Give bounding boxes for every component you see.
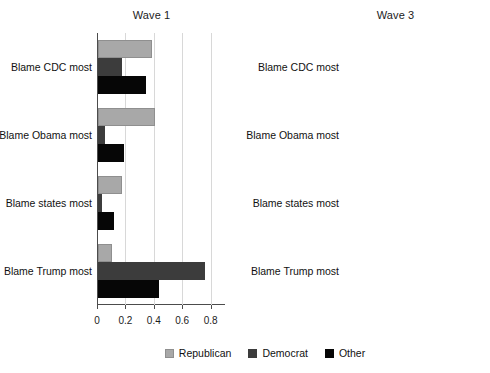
legend-item-republican: Republican <box>165 347 232 359</box>
category-label: Blame CDC most <box>11 61 92 73</box>
legend-label-republican: Republican <box>179 347 232 359</box>
x-axis-tick-mark <box>211 305 212 309</box>
bar-group <box>98 101 222 169</box>
x-axis-tick-mark <box>182 305 183 309</box>
bar-group <box>98 237 222 305</box>
bar-other <box>98 76 146 94</box>
category-label: Blame Obama most <box>0 129 92 141</box>
category-label: Blame Trump most <box>4 265 92 277</box>
bar-republican <box>98 176 122 194</box>
panel-wave-1: Wave 1 00.20.40.60.8 Blame CDC mostBlame… <box>0 0 245 340</box>
bar-democrat <box>98 126 105 144</box>
legend-label-other: Other <box>339 347 365 359</box>
category-label: Blame states most <box>253 197 339 209</box>
bar-democrat <box>98 262 205 280</box>
bar-group <box>98 33 222 101</box>
panel-title-wave-3: Wave 3 <box>245 9 490 21</box>
legend-swatch-republican-icon <box>165 349 174 358</box>
panel-wave-3: Wave 3 00.20.40.60.8 Blame CDC mostBlame… <box>245 0 490 340</box>
bar-other <box>98 144 124 162</box>
legend-label-democrat: Democrat <box>262 347 308 359</box>
bar-other <box>98 280 159 298</box>
x-axis-tick-label: 0 <box>94 315 100 326</box>
x-axis-tick-mark <box>125 305 126 309</box>
legend-swatch-democrat-icon <box>248 349 257 358</box>
x-axis-tick-label: 0.2 <box>118 315 132 326</box>
category-label: Blame states most <box>6 197 92 209</box>
x-axis-tick-mark <box>97 305 98 309</box>
bar-group <box>98 169 222 237</box>
bar-republican <box>98 244 112 262</box>
bar-democrat <box>98 58 122 76</box>
legend-swatch-other-icon <box>325 349 334 358</box>
plot-area-wave-1: 00.20.40.60.8 <box>97 33 222 305</box>
x-axis-tick-label: 0.6 <box>175 315 189 326</box>
chart-legend: Republican Democrat Other <box>0 347 490 359</box>
legend-item-democrat: Democrat <box>248 347 308 359</box>
bar-other <box>98 212 114 230</box>
bar-republican <box>98 108 155 126</box>
panel-title-wave-1: Wave 1 <box>0 9 245 21</box>
bar-republican <box>98 40 152 58</box>
bar-democrat <box>98 194 102 212</box>
category-label: Blame Obama most <box>246 129 339 141</box>
x-axis-tick-mark <box>154 305 155 309</box>
grouped-bar-chart-figure: Wave 1 00.20.40.60.8 Blame CDC mostBlame… <box>0 0 490 373</box>
category-label: Blame CDC most <box>258 61 339 73</box>
x-axis-tick-label: 0.8 <box>204 315 218 326</box>
legend-item-other: Other <box>325 347 365 359</box>
x-axis-tick-label: 0.4 <box>147 315 161 326</box>
category-label: Blame Trump most <box>251 265 339 277</box>
